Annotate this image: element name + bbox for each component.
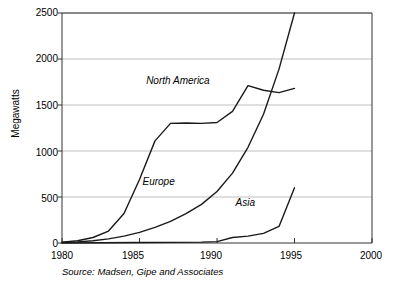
series-label-north-america: North America [146, 75, 210, 86]
x-tick-1990: 1990 [191, 250, 231, 261]
series-line-asia [62, 188, 295, 243]
gridlines [62, 13, 372, 197]
series-line-europe [62, 13, 295, 243]
source-note: Source: Madsen, Gipe and Associates [62, 266, 223, 277]
series-line-north-america [62, 86, 295, 242]
series-label-asia: Asia [236, 197, 255, 208]
x-tick-1980: 1980 [42, 250, 82, 261]
axes [62, 13, 372, 243]
x-tick-2000: 2000 [351, 250, 391, 261]
series-label-europe: Europe [143, 176, 175, 187]
x-tick-1985: 1985 [113, 250, 153, 261]
wind-capacity-line-chart: Megawatts 2500 2000 1500 1000 500 0 1980… [0, 0, 403, 294]
series-lines [62, 13, 295, 243]
axis-ticks [58, 13, 372, 243]
x-tick-1995: 1995 [271, 250, 311, 261]
